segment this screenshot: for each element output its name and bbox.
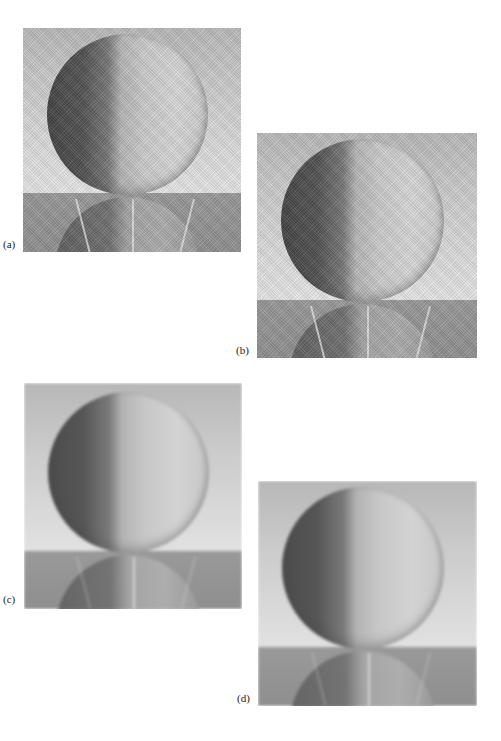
- grain-overlay: [24, 383, 242, 609]
- render-panel-b: [257, 133, 477, 358]
- grain-overlay: [257, 133, 477, 358]
- panel-label-c: (c): [3, 593, 15, 605]
- panel-label-d: (d): [237, 692, 250, 704]
- render-panel-a: [23, 28, 241, 252]
- panel-label-a: (a): [3, 238, 15, 250]
- render-panel-c: [24, 383, 242, 609]
- grain-overlay: [258, 481, 477, 706]
- panel-label-b: (b): [236, 344, 249, 356]
- render-panel-d: [258, 481, 477, 706]
- grain-overlay: [23, 28, 241, 252]
